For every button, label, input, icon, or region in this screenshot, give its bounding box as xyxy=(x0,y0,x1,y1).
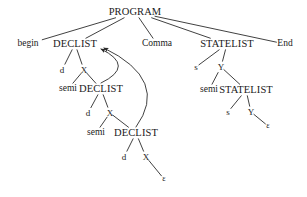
tree-node-end: End xyxy=(277,39,292,49)
tree-edge-x2-to-declist3 xyxy=(113,115,129,127)
tree-edge-program-to-comma xyxy=(139,18,153,38)
tree-node-comma: Comma xyxy=(142,39,172,49)
tree-edge-y1-to-semi3 xyxy=(212,73,218,85)
tree-node-s2: s xyxy=(226,108,230,117)
tree-edge-declist1-to-x1 xyxy=(77,50,82,64)
tree-edge-program-to-statelist1 xyxy=(152,18,211,38)
tree-node-d1: d xyxy=(60,66,65,75)
tree-edge-statelist1-to-y1 xyxy=(223,50,226,61)
tree-node-d2: d xyxy=(86,109,91,118)
tree-edge-y2-to-eps2 xyxy=(254,114,266,123)
tree-node-s1: s xyxy=(194,63,198,72)
tree-node-y1: Y xyxy=(218,63,225,72)
tree-edge-statelist2-to-s2 xyxy=(231,96,241,109)
tree-node-eps2: ε xyxy=(266,122,269,130)
tree-edges-layer xyxy=(0,0,307,197)
tree-node-eps1: ε xyxy=(162,175,165,183)
tree-node-semi1: semi xyxy=(59,84,77,94)
tree-edge-declist2-to-x2 xyxy=(103,95,108,107)
tree-edge-declist3-to-d3 xyxy=(127,139,133,151)
parse-tree-diagram: PROGRAMbeginDECLISTCommaSTATELISTEnddXse… xyxy=(0,0,307,197)
tree-edge-x1-to-declist2 xyxy=(87,73,96,83)
tree-node-begin: begin xyxy=(17,39,38,49)
tree-edge-statelist2-to-y2 xyxy=(247,96,249,106)
tree-node-program: PROGRAM xyxy=(109,7,162,18)
tree-edge-declist1-to-d1 xyxy=(65,50,72,64)
tree-node-statelist2: STATELIST xyxy=(219,85,273,96)
tree-edge-x1-to-semi1 xyxy=(73,73,81,83)
tree-edge-statelist1-to-s1 xyxy=(199,50,219,65)
tree-node-x3: X xyxy=(143,153,150,162)
tree-edge-program-to-begin xyxy=(42,18,115,40)
tree-node-y2: Y xyxy=(248,108,255,117)
tree-node-semi2: semi xyxy=(87,128,105,138)
tree-node-declist2: DECLIST xyxy=(79,84,123,95)
tree-node-statelist1: STATELIST xyxy=(200,39,254,50)
tree-edge-declist3-to-x3 xyxy=(138,139,143,151)
tree-node-declist1: DECLIST xyxy=(53,39,97,50)
tree-node-semi3: semi xyxy=(200,85,218,95)
tree-node-x2: X xyxy=(107,109,114,118)
tree-node-d3: d xyxy=(122,153,127,162)
tree-edge-declist2-to-d2 xyxy=(91,95,98,108)
tree-node-declist3: DECLIST xyxy=(114,128,158,139)
tree-edge-x3-to-eps1 xyxy=(149,161,162,176)
tree-edge-x2-to-semi2 xyxy=(100,117,107,127)
tree-edge-y1-to-statelist2 xyxy=(224,70,240,85)
tree-node-x1: X xyxy=(81,66,88,75)
